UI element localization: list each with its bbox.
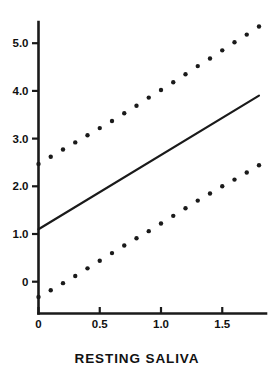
band-dot bbox=[122, 111, 126, 115]
band-dot bbox=[183, 206, 187, 210]
band-dot bbox=[257, 24, 261, 28]
x-tick-label: 1.5 bbox=[214, 318, 231, 330]
band-dot bbox=[73, 140, 77, 144]
band-dot bbox=[85, 133, 89, 137]
y-tick-label: 4.0 bbox=[13, 85, 29, 97]
band-dot bbox=[196, 198, 200, 202]
band-dot bbox=[208, 191, 212, 195]
band-dot bbox=[36, 162, 40, 166]
band-dot bbox=[159, 221, 163, 225]
band-dot bbox=[171, 80, 175, 84]
band-dot bbox=[61, 281, 65, 285]
band-dot bbox=[245, 32, 249, 36]
x-tick-label: 0.5 bbox=[92, 318, 109, 330]
band-dot bbox=[171, 214, 175, 218]
band-dot bbox=[147, 229, 151, 233]
band-dot bbox=[36, 295, 40, 299]
band-dot bbox=[232, 40, 236, 44]
band-dot bbox=[122, 243, 126, 247]
band-dot bbox=[159, 88, 163, 92]
band-dot bbox=[220, 48, 224, 52]
band-dot bbox=[232, 177, 236, 181]
x-tick-label: 0 bbox=[35, 318, 41, 330]
y-tick-label: 0 bbox=[22, 276, 28, 288]
band-dot bbox=[147, 95, 151, 99]
band-dot bbox=[220, 184, 224, 188]
band-dot bbox=[110, 119, 114, 123]
band-dot bbox=[245, 170, 249, 174]
band-dot bbox=[85, 266, 89, 270]
scatter-regression-plot: 01.02.03.04.05.0 00.51.01.5 RESTING SALI… bbox=[0, 0, 274, 378]
band-dot bbox=[49, 288, 53, 292]
band-dot bbox=[98, 126, 102, 130]
band-dot bbox=[98, 259, 102, 263]
band-dot bbox=[73, 274, 77, 278]
band-dot bbox=[61, 147, 65, 151]
x-tick-label: 1.0 bbox=[153, 318, 169, 330]
y-tick-label: 1.0 bbox=[13, 228, 29, 240]
band-dot bbox=[110, 251, 114, 255]
y-tick-label: 3.0 bbox=[13, 133, 29, 145]
y-tick-label: 2.0 bbox=[13, 180, 29, 192]
chart-figure: 01.02.03.04.05.0 00.51.01.5 RESTING SALI… bbox=[0, 0, 274, 378]
band-dot bbox=[134, 236, 138, 240]
band-dot bbox=[134, 103, 138, 107]
band-dot bbox=[49, 155, 53, 159]
band-dot bbox=[257, 163, 261, 167]
band-dot bbox=[196, 64, 200, 68]
band-dot bbox=[183, 72, 187, 76]
y-tick-label: 5.0 bbox=[13, 37, 29, 49]
x-axis-title: RESTING SALIVA bbox=[75, 351, 200, 366]
band-dot bbox=[208, 56, 212, 60]
